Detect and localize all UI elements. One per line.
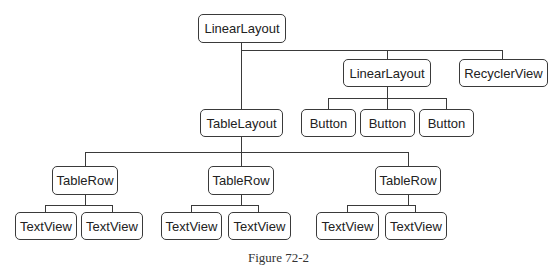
connector (241, 195, 242, 205)
connector (241, 50, 503, 51)
connector (112, 205, 113, 212)
node-text-view: TextView (161, 212, 222, 240)
node-text-view: TextView (385, 212, 447, 240)
connector (347, 205, 348, 212)
node-text-view: TextView (81, 212, 143, 240)
connector (45, 205, 113, 206)
connector (328, 98, 329, 109)
node-button: Button (419, 109, 474, 137)
connector (191, 205, 192, 212)
node-button: Button (301, 109, 356, 137)
connector (258, 205, 259, 212)
node-table-layout: TableLayout (200, 109, 283, 137)
node-table-row: TableRow (375, 166, 441, 195)
figure-caption: Figure 72-2 (0, 250, 557, 266)
node-button: Button (360, 109, 415, 137)
connector (85, 152, 409, 153)
connector (502, 50, 503, 59)
connector (45, 205, 46, 212)
connector (241, 43, 242, 109)
node-table-row: TableRow (52, 166, 118, 195)
node-recycler-view: RecyclerView (459, 59, 548, 87)
node-text-view: TextView (15, 212, 77, 240)
node-child-linear-layout: LinearLayout (343, 59, 431, 87)
connector (191, 205, 259, 206)
node-text-view: TextView (316, 212, 379, 240)
connector (347, 205, 416, 206)
connector (408, 195, 409, 205)
connector (85, 195, 86, 205)
view-hierarchy-diagram: LinearLayout LinearLayout RecyclerView T… (0, 0, 557, 271)
connector (85, 152, 86, 166)
node-text-view: TextView (228, 212, 291, 240)
node-table-row: TableRow (208, 166, 274, 195)
connector (387, 50, 388, 59)
connector (415, 205, 416, 212)
connector (408, 152, 409, 166)
connector (387, 87, 388, 98)
connector (387, 98, 388, 109)
node-root-linear-layout: LinearLayout (198, 14, 286, 43)
connector (446, 98, 447, 109)
